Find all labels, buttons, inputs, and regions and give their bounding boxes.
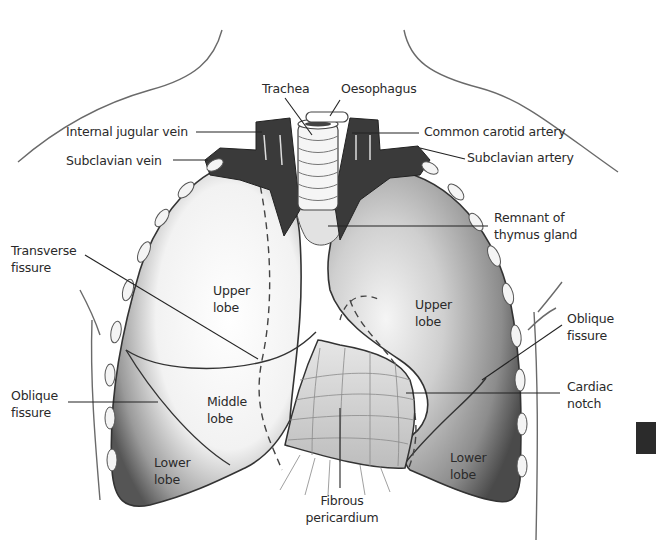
label-left-upper-lobe: Upper lobe	[415, 296, 452, 330]
label-fibrous-pericardium: Fibrous pericardium	[300, 492, 384, 526]
label-middle-lobe: Middle lobe	[207, 393, 247, 427]
label-oblique-fissure-left: Oblique fissure	[567, 310, 614, 344]
label-transverse-fissure: Transverse fissure	[11, 242, 76, 276]
label-right-lower-lobe: Lower lobe	[154, 454, 190, 488]
oesophagus	[306, 112, 348, 122]
trachea	[298, 119, 338, 210]
label-trachea: Trachea	[262, 80, 309, 97]
label-subclavian-vein: Subclavian vein	[66, 152, 162, 169]
edge-marker-block	[636, 422, 656, 454]
label-oesophagus: Oesophagus	[341, 80, 417, 97]
label-left-lower-lobe: Lower lobe	[450, 449, 486, 483]
label-cardiac-notch: Cardiac notch	[567, 378, 613, 412]
label-oblique-fissure-right: Oblique fissure	[11, 387, 58, 421]
label-right-upper-lobe: Upper lobe	[213, 282, 250, 316]
fibrous-pericardium	[280, 340, 415, 495]
label-remnant-of-thymus-gland: Remnant of thymus gland	[494, 209, 577, 243]
lung-anatomy-illustration	[0, 0, 656, 557]
label-subclavian-artery: Subclavian artery	[467, 149, 574, 166]
label-internal-jugular-vein: Internal jugular vein	[66, 123, 188, 140]
label-common-carotid-artery: Common carotid artery	[424, 123, 565, 140]
